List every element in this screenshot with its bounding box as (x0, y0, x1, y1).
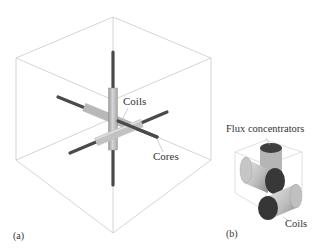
coil-z-axis (109, 52, 118, 185)
panel-b-diagram (240, 138, 302, 222)
coils-label-b: Coils (285, 219, 307, 230)
flux-concentrators-label: Flux concentrators (226, 124, 304, 135)
panel-a-label: (a) (13, 231, 24, 241)
figure: Coils Cores (a) Flux concentrators Coils… (0, 0, 322, 250)
panel-b-label: (b) (226, 229, 238, 239)
cores-label-a: Cores (153, 151, 179, 162)
coils-leader-a (122, 108, 128, 120)
coils-label-a: Coils (123, 96, 146, 107)
